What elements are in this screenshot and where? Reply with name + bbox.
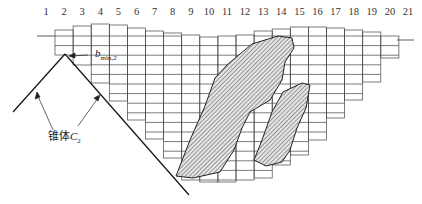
column-label: 16 xyxy=(312,6,323,17)
column-label: 10 xyxy=(204,6,215,17)
column-label: 19 xyxy=(367,6,378,17)
column-label: 21 xyxy=(403,6,414,17)
ground-surface-line xyxy=(37,36,414,40)
leader-lines xyxy=(35,53,100,130)
cone-label-text: 锥体 xyxy=(48,130,70,142)
cone-c2 xyxy=(13,54,189,195)
column-label: 20 xyxy=(385,6,396,17)
column-label: 15 xyxy=(294,6,305,17)
column-label: 17 xyxy=(330,6,341,17)
bmin-label: bmin,2 xyxy=(95,47,117,62)
column-label: 11 xyxy=(222,6,232,17)
column-label: 14 xyxy=(276,6,287,17)
column-label: 4 xyxy=(98,6,103,17)
column-label: 3 xyxy=(80,6,85,17)
pit-diagram: 123456789101112131415161718192021 bmin,2… xyxy=(0,0,422,204)
cone-label-subscript: 2 xyxy=(77,137,81,145)
column-label: 13 xyxy=(258,6,269,17)
cone-label: 锥体C2 xyxy=(48,127,81,145)
column-label: 2 xyxy=(61,6,66,17)
column-label: 12 xyxy=(240,6,251,17)
column-label: 7 xyxy=(152,6,157,17)
column-label: 9 xyxy=(188,6,193,17)
column-label: 8 xyxy=(170,6,175,17)
column-label: 1 xyxy=(43,6,48,17)
column-label: 18 xyxy=(348,6,359,17)
column-label: 5 xyxy=(116,6,121,17)
block-model-svg xyxy=(0,0,422,204)
bmin-subscript: min,2 xyxy=(101,54,117,62)
column-label: 6 xyxy=(134,6,139,17)
